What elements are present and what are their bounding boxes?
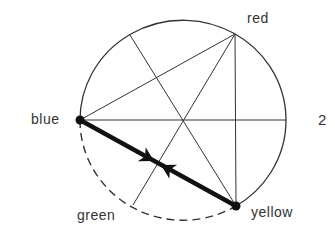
- arrowhead-from-blue-icon: [138, 147, 158, 168]
- label-green: green: [77, 208, 115, 222]
- point-yellow: [232, 202, 241, 211]
- label-yellow: yellow: [251, 205, 293, 219]
- line-red-yellow: [235, 34, 236, 206]
- figure-number: 2: [318, 112, 327, 127]
- arrowhead-from-yellow-icon: [157, 158, 177, 179]
- point-blue: [76, 116, 85, 125]
- label-red: red: [247, 11, 269, 25]
- label-blue: blue: [31, 112, 59, 126]
- line-red-blue: [80, 34, 235, 120]
- line-blue-yellow-thick: [80, 120, 236, 206]
